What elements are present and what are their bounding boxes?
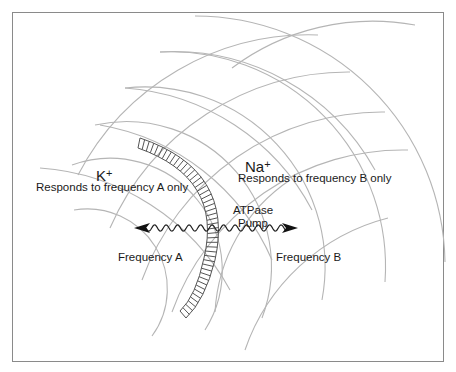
na-response-label: Responds to frequency B only bbox=[238, 172, 391, 185]
atpase-pump-line2: Pump bbox=[228, 217, 278, 230]
arrow-left-icon bbox=[134, 223, 150, 233]
atpase-pump-line1: ATPase bbox=[228, 204, 278, 217]
frequency-b-label: Frequency B bbox=[276, 251, 341, 264]
atpase-pump-label: ATPase Pump bbox=[228, 204, 278, 230]
k-response-label: Responds to frequency A only bbox=[36, 181, 188, 194]
frequency-a-label: Frequency A bbox=[118, 251, 183, 264]
